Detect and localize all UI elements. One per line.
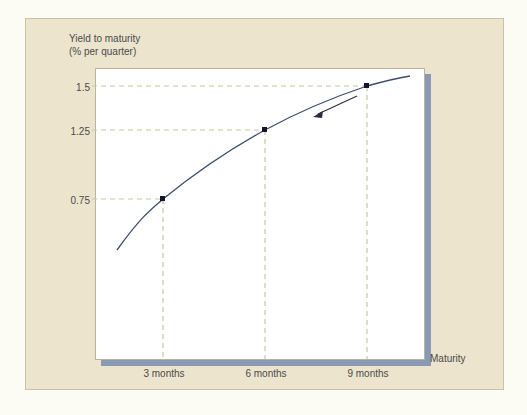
y-tick-label-2: 1.25: [56, 126, 90, 137]
x-tick-label-3: 9 months: [333, 368, 403, 379]
x-tick-label-1: 3 months: [129, 368, 199, 379]
y-axis-title-line1: Yield to maturity: [69, 33, 140, 44]
y-tick-label-1: 1.5: [56, 82, 90, 93]
x-tick-label-2: 6 months: [231, 368, 301, 379]
y-axis-title: Yield to maturity(% per quarter): [69, 33, 140, 58]
plot-area: [95, 68, 425, 360]
yield-curve-figure: Yield to maturity(% per quarter) Maturit…: [0, 0, 527, 415]
x-axis-title: Maturity: [430, 353, 466, 366]
y-axis-title-line2: (% per quarter): [69, 46, 136, 57]
y-tick-label-3: 0.75: [56, 195, 90, 206]
